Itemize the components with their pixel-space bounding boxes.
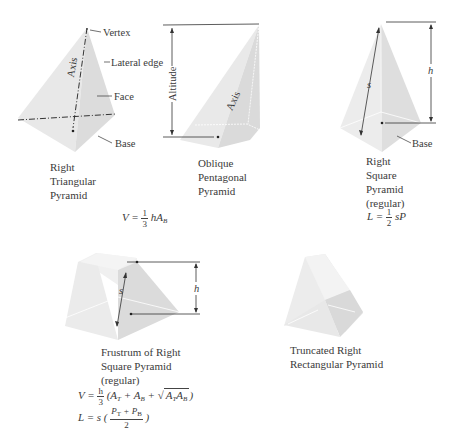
caption-line: Pyramid xyxy=(366,182,404,196)
denominator: 3 xyxy=(141,219,148,229)
term: + A xyxy=(121,389,140,401)
fraction: h3 xyxy=(97,386,104,407)
numerator: h xyxy=(97,386,104,397)
caption-line: Rectangular Pyramid xyxy=(290,357,383,371)
caption-line: (regular) xyxy=(101,373,180,387)
subscript: B xyxy=(137,410,142,418)
fraction: 12 xyxy=(386,207,393,228)
formula-rhs: sP xyxy=(395,210,406,222)
right-triangular-pyramid xyxy=(18,28,116,152)
truncated-caption: Truncated Right Rectangular Pyramid xyxy=(290,343,383,371)
term: + P xyxy=(121,406,137,416)
numerator: PT + PB xyxy=(110,406,143,420)
sqrt-symbol: √ xyxy=(158,389,164,401)
subscript: B xyxy=(183,395,187,403)
caption-line: Oblique xyxy=(198,156,247,170)
caption-line: Pentagonal xyxy=(198,170,247,184)
oblique-pentagonal-caption: Oblique Pentagonal Pyramid xyxy=(198,156,247,198)
lateral-edge-label: Lateral edge xyxy=(111,56,163,69)
formula-lhs: L = s ( xyxy=(78,411,108,423)
radicand: ATAB xyxy=(164,388,190,401)
caption-line: Frustrum of Right xyxy=(101,345,180,359)
formula-lhs: V = xyxy=(78,389,95,401)
lateral-area-formula: L = 12 sP xyxy=(367,207,406,228)
numerator: 1 xyxy=(386,207,393,218)
caption-line: Right xyxy=(366,154,404,168)
altitude-label: Altitude xyxy=(166,66,179,102)
term: + xyxy=(145,389,158,401)
frustum-volume-formula: V = h3 (AT + AB + √ATAB) xyxy=(78,386,193,407)
fraction: 13 xyxy=(141,208,148,229)
right-triangular-caption: Right Triangular Pyramid xyxy=(50,160,96,202)
slant-s-label: s xyxy=(367,78,371,91)
frustum-h-label: h xyxy=(194,282,199,295)
frustum-s-label: s xyxy=(119,284,123,297)
formula-lhs: V = xyxy=(122,211,139,223)
term: (A xyxy=(107,389,117,401)
caption-line: Square xyxy=(366,168,404,182)
truncated-rectangular-pyramid xyxy=(284,254,363,337)
denominator: 2 xyxy=(386,218,393,228)
volume-formula: V = 13 hAB xyxy=(122,208,167,229)
caption-line: Truncated Right xyxy=(290,343,383,357)
formula-lhs: L = xyxy=(367,210,383,222)
fraction: PT + PB2 xyxy=(110,406,143,429)
caption-line: Right xyxy=(50,160,96,174)
caption-line: Pyramid xyxy=(198,184,247,198)
right-square-caption: Right Square Pyramid (regular) xyxy=(366,154,404,210)
term: ) xyxy=(189,389,193,401)
vertex-label: Vertex xyxy=(103,26,130,39)
face-label: Face xyxy=(114,90,134,103)
base-label: Base xyxy=(115,137,135,150)
right-square-pyramid xyxy=(340,22,436,152)
formula-rhs: hA xyxy=(151,211,163,223)
caption-line: Pyramid xyxy=(50,188,96,202)
caption-line: Triangular xyxy=(50,174,96,188)
caption-line: Square Pyramid xyxy=(101,359,180,373)
term: ) xyxy=(146,411,150,423)
square-base-label: Base xyxy=(412,137,432,150)
height-h-label: h xyxy=(428,64,433,77)
denominator: 2 xyxy=(110,420,143,429)
frustum-caption: Frustrum of Right Square Pyramid (regula… xyxy=(101,345,180,387)
frustum-lateral-formula: L = s ( PT + PB2 ) xyxy=(78,406,149,429)
subscript: B xyxy=(163,217,167,225)
numerator: 1 xyxy=(141,208,148,219)
frustum-pyramid xyxy=(65,253,200,340)
